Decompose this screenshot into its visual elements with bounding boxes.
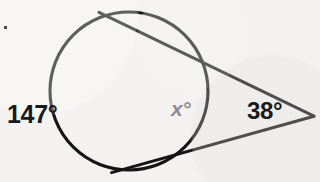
- circle-shape: [50, 12, 208, 170]
- lower-secant-line: [112, 116, 315, 172]
- vertex-angle-label: 38°: [247, 99, 282, 123]
- geometry-figure: [0, 0, 320, 182]
- unknown-arc-label: x°: [171, 98, 190, 119]
- paper-speck: [4, 26, 7, 29]
- arc-measure-label-left: 147°: [7, 102, 58, 127]
- diagram-canvas: 147° x° 38°: [0, 0, 320, 182]
